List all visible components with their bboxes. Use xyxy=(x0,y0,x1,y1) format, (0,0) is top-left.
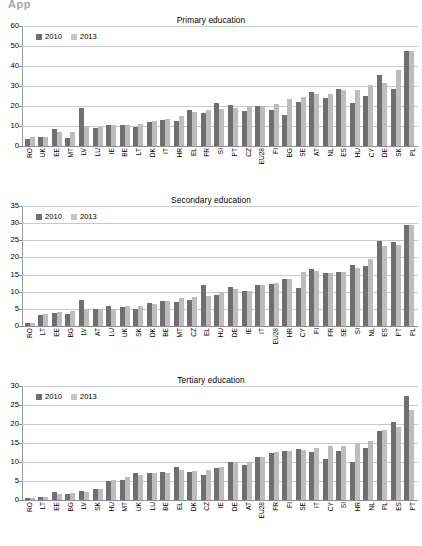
bar-category-group xyxy=(158,26,172,146)
bar-2013 xyxy=(152,121,157,146)
bar-2013 xyxy=(341,90,346,146)
x-tick-label: HR xyxy=(177,148,184,158)
bar-category-group xyxy=(335,386,349,500)
x-tick-label-cell: LU xyxy=(91,148,105,182)
x-tick-label-cell: MT xyxy=(64,148,78,182)
x-axis-labels-primary: ROUKEEMTLVLUIEBELTDKITHRELFRSIPTCZEU28FI… xyxy=(23,148,420,182)
bar-category-group xyxy=(186,206,200,326)
bar-2013 xyxy=(84,126,89,146)
bar-2013 xyxy=(30,137,35,146)
x-tick-label: SI xyxy=(341,502,348,508)
figure-page: App Primary education 0102030405060 ROUK… xyxy=(0,0,422,546)
bar-category-group xyxy=(77,386,91,500)
bar-category-group xyxy=(131,206,145,326)
x-tick-label-cell: RO xyxy=(23,328,37,362)
x-tick-label-cell: CY xyxy=(297,328,311,362)
x-tick-label: LV xyxy=(81,328,88,336)
x-tick-label: SE xyxy=(300,148,307,157)
bar-2013 xyxy=(409,410,414,500)
bar-category-group xyxy=(37,26,51,146)
x-tick-label: SK xyxy=(136,328,143,337)
y-tick-label: 25 xyxy=(11,401,19,409)
bar-2013 xyxy=(43,137,48,146)
x-tick-label: HU xyxy=(355,148,362,158)
x-tick-label-cell: EU28 xyxy=(269,328,283,362)
chart-title-tertiary: Tertiary education xyxy=(0,374,422,386)
bar-2013 xyxy=(179,298,184,326)
x-tick-label: PL xyxy=(382,502,389,510)
bar-category-group xyxy=(280,386,294,500)
x-axis-labels-secondary: ROLTEEBGLVATLUUKSKDKBEMTCZELHUDEIEITEU28… xyxy=(23,328,420,362)
bar-category-group xyxy=(186,26,200,146)
chart-title-secondary: Secondary education xyxy=(0,194,422,206)
x-tick-label: DK xyxy=(191,502,198,511)
x-tick-label: IT xyxy=(314,502,321,508)
bar-2013 xyxy=(165,119,170,146)
x-tick-label-cell: IE xyxy=(105,148,119,182)
x-axis-labels-tertiary: ROLTEEBGLVSKHUMTUKLUBEELDKCZIEDEATEU28FR… xyxy=(23,502,420,536)
bar-category-group xyxy=(402,206,416,326)
x-tick-label-cell: PL xyxy=(379,502,393,536)
bar-2013 xyxy=(247,106,252,146)
x-tick-label: SE xyxy=(341,328,348,337)
bar-2013 xyxy=(206,110,211,146)
bar-category-group xyxy=(213,386,227,500)
x-tick-label: CZ xyxy=(191,328,198,337)
bar-category-group xyxy=(280,206,294,326)
bar-category-group xyxy=(104,26,118,146)
x-tick-label: FI xyxy=(287,502,294,508)
bar-2013 xyxy=(111,125,116,146)
bar-2013 xyxy=(382,83,387,146)
bar-category-group xyxy=(362,386,376,500)
bar-2013 xyxy=(274,452,279,500)
bar-category-group xyxy=(253,386,267,500)
x-tick-label-cell: IT xyxy=(310,502,324,536)
plot-area-secondary: 05101520253035 xyxy=(0,206,418,326)
bar-category-group xyxy=(362,26,376,146)
x-tick-label-cell: BG xyxy=(283,148,297,182)
bar-category-group xyxy=(389,206,403,326)
bar-category-group xyxy=(402,386,416,500)
bar-category-group xyxy=(172,26,186,146)
bar-2013 xyxy=(179,116,184,146)
x-tick-label-cell: EL xyxy=(201,328,215,362)
x-tick-label-cell: NL xyxy=(365,502,379,536)
legend-item-2013: 2013 xyxy=(71,213,97,221)
bar-2013 xyxy=(192,471,197,500)
x-tick-label: FI xyxy=(314,328,321,334)
bar-category-group xyxy=(104,206,118,326)
bar-2013 xyxy=(355,90,360,146)
y-axis-secondary: 05101520253035 xyxy=(0,206,22,326)
x-tick-label: MT xyxy=(122,502,129,512)
bar-category-group xyxy=(118,206,132,326)
bar-2013 xyxy=(125,125,130,146)
x-tick-label: BG xyxy=(287,148,294,158)
bar-category-group xyxy=(389,26,403,146)
bar-category-group xyxy=(280,26,294,146)
bar-2013 xyxy=(165,301,170,326)
bar-2013 xyxy=(233,108,238,146)
x-tick-label: EE xyxy=(54,148,61,157)
bar-2013 xyxy=(219,109,224,146)
y-tick-label: 30 xyxy=(11,382,19,390)
bar-2013 xyxy=(43,314,48,326)
legend-label-2010: 2010 xyxy=(45,393,62,401)
x-tick-label: IE xyxy=(109,148,116,154)
bar-category-group xyxy=(50,206,64,326)
x-tick-label-cell: UK xyxy=(133,502,147,536)
bar-2013 xyxy=(70,493,75,500)
y-axis-primary: 0102030405060 xyxy=(0,26,22,146)
y-tick-label: 20 xyxy=(11,254,19,262)
x-tick-label: EL xyxy=(177,502,184,510)
x-tick-label: LT xyxy=(136,148,143,155)
x-tick-label-cell: SE xyxy=(297,502,311,536)
bar-2013 xyxy=(152,473,157,500)
x-tick-label-cell: ES xyxy=(379,328,393,362)
bar-2013 xyxy=(219,292,224,326)
x-tick-label-cell: CY xyxy=(365,148,379,182)
y-tick-label: 20 xyxy=(11,420,19,428)
bar-2013 xyxy=(152,304,157,326)
bar-2013 xyxy=(57,494,62,500)
x-tick-label: PT xyxy=(410,502,417,510)
bar-2013 xyxy=(287,279,292,326)
